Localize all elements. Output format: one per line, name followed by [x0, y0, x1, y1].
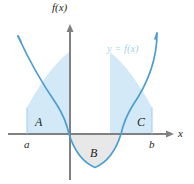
region-label-c: C: [137, 116, 145, 128]
region-a-shading: [27, 52, 69, 134]
region-c-shading: [110, 52, 152, 134]
y-axis-label: f(x): [52, 2, 67, 13]
curve-equation-label: y = f(x): [107, 44, 139, 55]
x-tick-label-b: b: [149, 139, 155, 150]
x-axis-arrowhead: [166, 131, 174, 138]
function-area-figure: f(x) x y = f(x) A B C a b: [0, 0, 194, 184]
region-label-a: A: [35, 116, 42, 128]
y-axis-arrowhead: [67, 24, 74, 32]
x-tick-label-a: a: [24, 139, 30, 150]
region-label-b: B: [90, 147, 97, 159]
x-axis-label: x: [178, 128, 183, 139]
